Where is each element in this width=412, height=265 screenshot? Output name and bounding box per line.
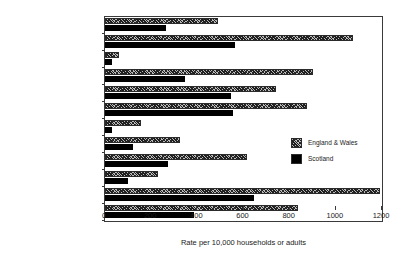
bar-england-wales [105, 69, 313, 75]
bar-group [105, 68, 382, 85]
x-axis-tick-label: 1200 [361, 211, 401, 221]
chart-legend: England & Wales Scotland [291, 136, 381, 168]
x-axis-tick [104, 206, 105, 210]
x-axis-tick-label: 600 [223, 211, 263, 221]
bar-england-wales [105, 137, 180, 143]
bar-group [105, 51, 382, 68]
bar-england-wales [105, 120, 141, 126]
x-axis-tick-label: 1000 [315, 211, 355, 221]
legend-label: England & Wales [308, 138, 358, 148]
bar-scotland [105, 93, 231, 99]
x-axis-tick [196, 206, 197, 210]
bar-scotland [105, 42, 235, 48]
x-axis-tick [289, 206, 290, 210]
bar-group [105, 102, 382, 119]
bar-group [105, 187, 382, 204]
bar-scotland [105, 110, 233, 116]
bar-scotland [105, 178, 128, 184]
bar-scotland [105, 25, 166, 31]
bar-england-wales [105, 154, 247, 160]
bar-scotland [105, 161, 168, 167]
x-axis-tick-label: 400 [176, 211, 216, 221]
bar-group [105, 34, 382, 51]
bar-england-wales [105, 188, 380, 194]
x-axis-tick [381, 206, 382, 210]
bar-scotland [105, 144, 133, 150]
bar-scotland [105, 59, 112, 65]
bar-group [105, 85, 382, 102]
bar-chart: Other personal theftsOther household the… [0, 0, 412, 265]
x-axis-tick [335, 206, 336, 210]
bar-scotland [105, 76, 185, 82]
x-axis-tick-label: 200 [130, 211, 170, 221]
x-axis-tick [243, 206, 244, 210]
bar-england-wales [105, 35, 353, 41]
x-axis-tick [150, 206, 151, 210]
bar-england-wales [105, 171, 158, 177]
legend-swatch-hatched-icon [291, 138, 302, 148]
bar-england-wales [105, 103, 307, 109]
bar-england-wales [105, 18, 218, 24]
bar-scotland [105, 195, 254, 201]
legend-swatch-solid-icon [291, 154, 302, 164]
bar-group [105, 170, 382, 187]
x-axis-tick-label: 800 [269, 211, 309, 221]
bar-england-wales [105, 52, 119, 58]
legend-label: Scotland [308, 154, 333, 164]
bar-group [105, 17, 382, 34]
bar-england-wales [105, 86, 276, 92]
bar-group [105, 119, 382, 136]
bar-scotland [105, 127, 112, 133]
legend-item-england-wales: England & Wales [291, 136, 381, 152]
plot-area [104, 16, 383, 222]
x-axis-title: Rate per 10,000 households or adults [104, 238, 383, 248]
legend-item-scotland: Scotland [291, 152, 381, 168]
x-axis-tick-label: 0 [84, 211, 124, 221]
